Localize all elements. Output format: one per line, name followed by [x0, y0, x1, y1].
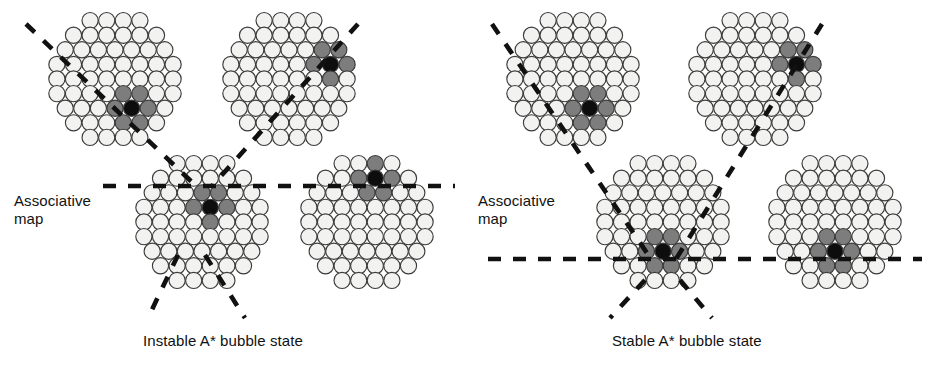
- right-panel-caption: Stable A* bubble state: [612, 332, 762, 349]
- left-panel-diagonal-dashed-line-4: [205, 255, 245, 318]
- left-panel-caption: Instable A* bubble state: [143, 332, 303, 349]
- left-panel-diagonal-dashed-line-1: [26, 24, 196, 186]
- right-panel-diagonal-dashed-line-4: [680, 280, 712, 318]
- right-panel-associative-map-label: Associative map: [478, 192, 555, 228]
- figure-root: Associative map Instable A* bubble state…: [0, 0, 928, 366]
- dashed-lines-layer: [0, 0, 928, 366]
- right-panel-diagonal-dashed-line-3: [610, 280, 645, 318]
- left-panel-diagonal-dashed-line-2: [212, 24, 358, 186]
- left-panel-associative-map-label: Associative map: [14, 192, 91, 228]
- right-panel-diagonal-dashed-line-2: [676, 24, 822, 259]
- left-panel-diagonal-dashed-line-3: [148, 255, 178, 318]
